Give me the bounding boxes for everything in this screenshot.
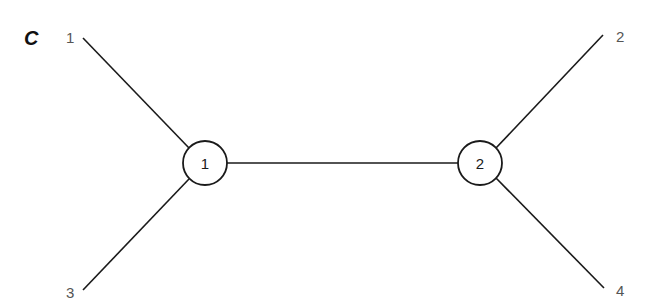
leaf-label-3: 3 bbox=[66, 284, 74, 301]
edge-leaf-2 bbox=[496, 35, 603, 148]
tree-diagram: C 1 2 1 3 2 4 bbox=[0, 0, 658, 306]
panel-label: C bbox=[24, 27, 39, 49]
edge-leaf-3 bbox=[83, 179, 189, 290]
edge-leaf-4 bbox=[496, 178, 604, 288]
node-label: 1 bbox=[201, 155, 209, 172]
edge-leaf-1 bbox=[83, 38, 189, 148]
leaf-label-4: 4 bbox=[616, 282, 624, 299]
internal-node-1: 1 bbox=[183, 141, 227, 185]
internal-node-2: 2 bbox=[458, 141, 502, 185]
leaf-label-2: 2 bbox=[616, 28, 624, 45]
leaf-label-1: 1 bbox=[66, 29, 74, 46]
node-label: 2 bbox=[476, 155, 484, 172]
